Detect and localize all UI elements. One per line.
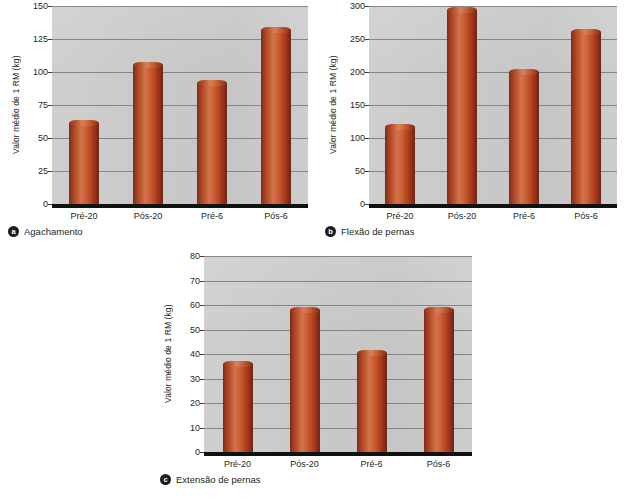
y-axis-ticks: 050100150200250300 [339,6,369,204]
y-tick-label: 60 [190,300,200,310]
bar-p-s-20 [290,310,320,452]
y-tick-label: 0 [43,199,48,209]
bar-chart-a: Valor médio de 1 RM (kg)0255075100125150… [8,6,308,237]
bar-p-s-6 [261,30,291,204]
plot-area [369,6,617,204]
y-tick-label: 80 [190,251,200,261]
panel-caption: bFlexão de pernas [325,221,617,237]
x-axis-spacer [325,204,339,221]
bar-group [204,256,472,452]
bar-chart-b: Valor médio de 1 RM (kg)0501001502002503… [325,6,617,237]
x-axis-baseline [204,452,472,456]
bar-p-s-20 [133,65,163,204]
y-axis-title: Valor médio de 1 RM (kg) [160,256,174,452]
x-axis-spacer [160,452,174,469]
bar-slot [180,6,244,204]
y-tick-label: 150 [350,100,365,110]
panel-caption: cExtensão de pernas [160,469,472,485]
bar-top-ellipse [509,69,539,75]
y-tick-label: 200 [350,67,365,77]
y-tick-label: 0 [360,199,365,209]
bar-group [369,6,617,204]
bar-pr-6 [509,72,539,204]
x-axis-baseline [369,204,617,208]
bar-top-ellipse [261,27,291,33]
y-tick-label: 30 [190,374,200,384]
chart-panel-flexao-de-pernas: Valor médio de 1 RM (kg)0501001502002503… [325,6,617,237]
bar-top-ellipse [385,124,415,130]
y-tick-label: 300 [350,1,365,11]
bar-slot [271,256,338,452]
bar-top-ellipse [447,7,477,13]
bar-slot [338,256,405,452]
bar-p-s-6 [571,32,601,204]
bar-top-ellipse [424,307,454,313]
y-axis-title: Valor médio de 1 RM (kg) [8,6,22,204]
bar-p-s-6 [424,310,454,452]
y-axis-title: Valor médio de 1 RM (kg) [325,6,339,204]
y-tick-label: 50 [38,133,48,143]
bar-pr-20 [385,127,415,204]
bar-slot [204,256,271,452]
y-tick-label: 150 [33,1,48,11]
bar-top-ellipse [133,62,163,68]
bar-top-ellipse [223,361,253,367]
y-tick-label: 125 [33,34,48,44]
bar-slot [52,6,116,204]
panel-caption-label: Extensão de pernas [176,474,261,485]
panel-letter-badge-icon: b [325,226,336,237]
bar-slot [555,6,617,204]
plot-area [204,256,472,452]
chart-panel-extensao-de-pernas: Valor médio de 1 RM (kg)0102030405060708… [160,256,472,485]
x-axis-spacer [8,204,22,221]
y-tick-label: 25 [38,166,48,176]
y-axis-ticks: 0255075100125150 [22,6,52,204]
y-tick-label: 20 [190,398,200,408]
y-tick-label: 70 [190,276,200,286]
panel-caption-label: Agachamento [24,226,83,237]
bar-slot [116,6,180,204]
y-tick-label: 50 [190,325,200,335]
y-tick-label: 10 [190,423,200,433]
bar-top-ellipse [357,350,387,356]
bar-slot [431,6,493,204]
bar-slot [405,256,472,452]
bar-pr-6 [357,353,387,452]
bar-top-ellipse [197,80,227,86]
bar-chart-c: Valor médio de 1 RM (kg)0102030405060708… [160,256,472,485]
bar-slot [369,6,431,204]
panel-letter-badge-icon: c [160,474,171,485]
y-tick-label: 100 [33,67,48,77]
plot-area [52,6,308,204]
bar-slot [493,6,555,204]
y-axis-ticks: 01020304050607080 [174,256,204,452]
y-tick-label: 40 [190,349,200,359]
bar-top-ellipse [69,120,99,126]
bar-group [52,6,308,204]
bar-pr-20 [223,364,253,452]
bar-slot [244,6,308,204]
panel-letter-badge-icon: a [8,226,19,237]
panel-caption-label: Flexão de pernas [341,226,414,237]
chart-panel-agachamento: Valor médio de 1 RM (kg)0255075100125150… [8,6,308,237]
bar-p-s-20 [447,10,477,204]
bar-top-ellipse [290,307,320,313]
panel-caption: aAgachamento [8,221,308,237]
bar-top-ellipse [571,29,601,35]
bar-pr-20 [69,123,99,204]
y-tick-label: 100 [350,133,365,143]
y-tick-label: 250 [350,34,365,44]
y-tick-label: 0 [195,447,200,457]
bar-pr-6 [197,83,227,204]
y-tick-label: 75 [38,100,48,110]
x-axis-baseline [52,204,308,208]
y-tick-label: 50 [355,166,365,176]
